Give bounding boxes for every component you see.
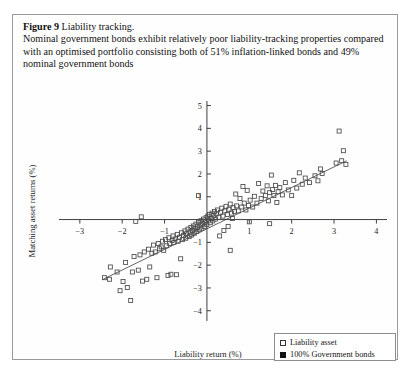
data-point (146, 247, 150, 251)
data-point (274, 183, 278, 187)
data-point (141, 279, 145, 283)
data-point (169, 272, 173, 276)
data-point (124, 260, 128, 264)
data-point (142, 250, 146, 254)
data-point (226, 224, 230, 228)
x-tick-label: 1 (247, 227, 251, 236)
data-point (252, 194, 256, 198)
figure-description: Nominal government bonds exhibit relativ… (23, 33, 383, 69)
data-point (257, 182, 261, 186)
legend-item-liability-asset: Liability asset (280, 337, 391, 348)
data-point (295, 186, 299, 190)
data-point (125, 285, 129, 289)
data-point (248, 198, 252, 202)
data-point (334, 161, 338, 165)
data-point (246, 203, 250, 207)
figure-title: Liability tracking. (62, 21, 135, 32)
data-point (179, 257, 183, 261)
data-point (275, 200, 279, 204)
data-point (130, 270, 134, 274)
data-point (145, 277, 149, 281)
data-point (341, 149, 345, 153)
open-square-marker-icon (280, 340, 286, 346)
trend-line (103, 161, 347, 280)
y-tick-label: −2 (193, 261, 202, 270)
data-point (318, 167, 322, 171)
data-point (121, 280, 125, 284)
data-point (292, 178, 296, 182)
chart-legend: Liability asset 100% Government bonds (274, 333, 396, 361)
x-tick-label: −1 (160, 227, 169, 236)
data-point (240, 205, 244, 209)
x-tick-label: 3 (332, 227, 336, 236)
data-point (297, 171, 301, 175)
data-point (238, 197, 242, 201)
data-point (118, 289, 122, 293)
data-point (148, 265, 152, 269)
data-point (234, 192, 238, 196)
x-tick-label: −3 (75, 227, 84, 236)
data-point (307, 181, 311, 185)
data-point (268, 222, 272, 226)
data-point (228, 248, 232, 252)
data-point (227, 207, 231, 211)
data-point (222, 228, 226, 232)
data-point (283, 181, 287, 185)
data-point (269, 173, 273, 177)
data-point (132, 254, 136, 258)
y-tick-label: −1 (193, 238, 202, 247)
scatter-plot: −3−2−11234−4−3−2−112345Liability return … (13, 93, 399, 361)
figure-number: Figure 9 (23, 21, 59, 32)
filled-square-marker-icon (280, 352, 286, 358)
data-point (108, 265, 112, 269)
data-point (107, 277, 111, 281)
data-point (344, 162, 348, 166)
data-point (265, 184, 269, 188)
data-point (259, 197, 263, 201)
data-point (278, 186, 282, 190)
data-point (139, 215, 143, 219)
data-point (129, 298, 133, 302)
legend-label: Liability asset (290, 338, 337, 347)
data-point (220, 206, 224, 210)
data-point (263, 194, 267, 198)
y-axis-title: Matching asset returns (%) (27, 164, 37, 257)
data-point (242, 201, 246, 205)
data-point (261, 189, 265, 193)
data-point (280, 193, 284, 197)
data-point (245, 188, 249, 192)
legend-label: 100% Government bonds (290, 350, 375, 359)
y-tick-label: 5 (198, 102, 202, 111)
data-point (218, 234, 222, 238)
data-point (155, 276, 159, 280)
y-tick-label: −3 (193, 284, 202, 293)
data-point (303, 176, 307, 180)
plot-canvas: −3−2−11234−4−3−2−112345Liability return … (13, 93, 399, 361)
x-tick-label: 2 (290, 227, 294, 236)
data-point (337, 129, 341, 133)
data-point (166, 273, 170, 277)
data-point (224, 204, 228, 208)
legend-item-government-bonds: 100% Government bonds (280, 349, 391, 360)
x-axis-title: Liability return (%) (174, 349, 241, 359)
data-point (174, 273, 178, 277)
x-tick-label: −2 (118, 227, 127, 236)
data-point (138, 253, 142, 257)
data-point (290, 194, 294, 198)
data-point (316, 179, 320, 183)
figure-frame: Figure 9 Liability tracking. Nominal gov… (12, 14, 398, 360)
y-tick-label: 4 (198, 124, 202, 133)
y-tick-label: 3 (198, 147, 202, 156)
y-tick-label: 2 (198, 170, 202, 179)
data-point (152, 243, 156, 247)
data-point (221, 214, 225, 218)
x-tick-label: 4 (374, 227, 378, 236)
data-point (136, 268, 140, 272)
data-point (241, 184, 245, 188)
y-tick-label: −4 (193, 307, 202, 316)
figure-caption: Figure 9 Liability tracking. Nominal gov… (23, 21, 391, 71)
